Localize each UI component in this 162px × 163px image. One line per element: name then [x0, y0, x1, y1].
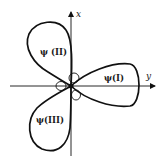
lobe-label-1: ψ(I): [104, 73, 124, 83]
origin-dot: [69, 84, 74, 89]
hybrid-orbital-diagram: x y ψ(I) ψ (II) ψ(III): [0, 0, 162, 163]
y-axis-label: y: [145, 71, 152, 81]
lobe-psi-1: [71, 64, 139, 107]
lobe-label-3: ψ(III): [36, 115, 64, 125]
small-lobe-bottom: [72, 90, 81, 100]
small-lobe-top: [69, 73, 79, 83]
lobe-label-2: ψ (II): [40, 47, 67, 57]
x-axis-label: x: [76, 9, 81, 19]
